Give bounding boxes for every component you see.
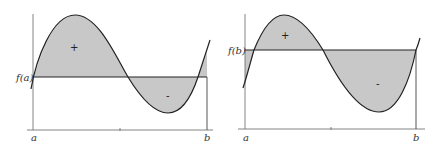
x-label-a: a bbox=[243, 132, 249, 143]
minus-sign: - bbox=[376, 78, 380, 89]
right-panel: + - f(b) a b bbox=[227, 14, 425, 143]
positive-area bbox=[34, 15, 128, 77]
reference-label: f(b) bbox=[227, 45, 246, 56]
diagram: + - f(a) a b + - f(b) a b bbox=[0, 0, 439, 153]
reference-label: f(a) bbox=[15, 72, 34, 83]
left-panel: + - f(a) a b bbox=[15, 14, 213, 143]
minus-sign: - bbox=[166, 90, 170, 101]
x-label-b: b bbox=[204, 132, 210, 143]
plus-sign: + bbox=[70, 42, 78, 53]
x-label-a: a bbox=[31, 132, 37, 143]
negative-area bbox=[323, 50, 416, 112]
plus-sign: + bbox=[281, 30, 289, 41]
x-label-b: b bbox=[413, 132, 419, 143]
negative-area bbox=[128, 77, 198, 113]
